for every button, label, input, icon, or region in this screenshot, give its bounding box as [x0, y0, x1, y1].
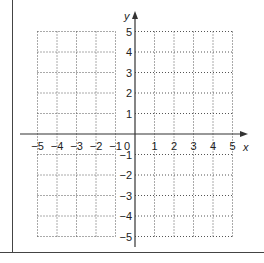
- y-tick-label: 1: [126, 108, 132, 120]
- x-tick-label: 5: [229, 140, 235, 152]
- y-tick-label: −5: [119, 231, 132, 243]
- y-tick-label: 2: [126, 87, 132, 99]
- x-tick-label: −4: [51, 140, 64, 152]
- x-axis-label: x: [242, 141, 249, 153]
- axes: x y: [20, 10, 249, 247]
- y-tick-label: −1: [119, 149, 132, 161]
- x-tick-label: 4: [210, 140, 216, 152]
- coordinate-plane-figure: x y −5−4−3−2−1012345 54321−1−2−3−4−5: [0, 0, 264, 263]
- y-tick-label: 3: [126, 67, 132, 79]
- y-tick-label: 4: [126, 46, 132, 58]
- y-axis-label: y: [123, 10, 131, 22]
- y-tick-label: −2: [119, 169, 132, 181]
- x-tick-label: −2: [90, 140, 103, 152]
- x-tick-label: −5: [31, 140, 44, 152]
- x-tick-label: −3: [70, 140, 83, 152]
- x-tick-label: 1: [151, 140, 157, 152]
- y-tick-label: −4: [119, 210, 132, 222]
- x-tick-labels: −5−4−3−2−1012345: [31, 140, 235, 152]
- x-tick-label: 3: [190, 140, 196, 152]
- y-tick-label: −3: [119, 190, 132, 202]
- x-axis-arrow-icon: [240, 131, 248, 137]
- x-tick-label: 2: [171, 140, 177, 152]
- y-tick-label: 5: [126, 26, 132, 38]
- y-axis-arrow-icon: [132, 11, 138, 19]
